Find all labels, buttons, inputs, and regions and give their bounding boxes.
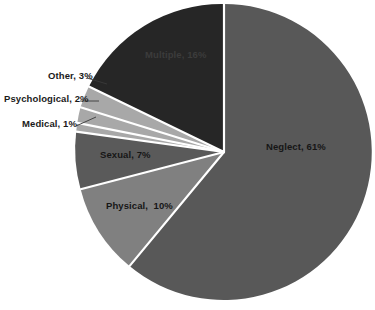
pie-label-multiple: Multiple, 16% xyxy=(145,50,206,60)
pie-label-other: Other, 3% xyxy=(48,71,93,81)
pie-label-physical: Physical, 10% xyxy=(106,201,173,211)
pie-label-sexual: Sexual, 7% xyxy=(100,150,151,160)
pie-label-medical: Medical, 1% xyxy=(22,119,77,129)
pie-label-neglect: Neglect, 61% xyxy=(266,142,326,152)
pie-chart: Neglect, 61% Multiple, 16% Physical, 10%… xyxy=(0,0,375,310)
pie-chart-canvas xyxy=(0,0,375,310)
pie-label-psychological: Psychological, 2% xyxy=(4,94,89,104)
